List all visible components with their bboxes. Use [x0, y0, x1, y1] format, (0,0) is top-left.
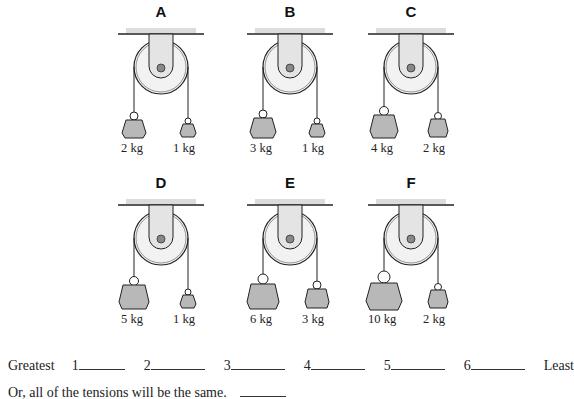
rank-blank-3[interactable]: [231, 355, 285, 370]
mass-right-label: 1 kg: [173, 141, 195, 156]
pulley-panel-a: A 2 kg 1 kg: [106, 0, 216, 165]
rank-number-6: 6: [464, 358, 471, 374]
rank-blank-6[interactable]: [471, 355, 525, 370]
ranking-row: Greatest 1 2 3 4 5 6 Least: [8, 355, 574, 374]
rank-blank-1[interactable]: [79, 355, 125, 370]
mass-right-label: 1 kg: [302, 141, 324, 156]
greatest-label: Greatest: [8, 358, 55, 374]
rank-number-4: 4: [304, 358, 311, 374]
mass-left-label: 4 kg: [371, 141, 393, 156]
pulley-panel-b: B 3 kg 1 kg: [235, 0, 345, 165]
mass-left-label: 2 kg: [121, 141, 143, 156]
rank-blank-4[interactable]: [311, 355, 365, 370]
pulley-panel-d: D 5 kg 1 kg: [106, 171, 216, 336]
same-tension-text: Or, all of the tensions will be the same…: [8, 385, 227, 399]
same-tension-blank[interactable]: [240, 382, 286, 397]
rank-blank-5[interactable]: [391, 355, 445, 370]
pulley-panel-e: E 6 kg 3 kg: [235, 171, 345, 336]
same-tension-row: Or, all of the tensions will be the same…: [8, 382, 286, 399]
rank-blank-2[interactable]: [151, 355, 205, 370]
least-label: Least: [544, 358, 574, 374]
pulley-panel-c: C 4 kg 2 kg: [356, 0, 466, 165]
mass-left-label: 10 kg: [368, 312, 396, 327]
mass-right-label: 1 kg: [173, 312, 195, 327]
mass-left-label: 3 kg: [250, 141, 272, 156]
mass-left-label: 5 kg: [121, 312, 143, 327]
rank-number-2: 2: [144, 358, 151, 374]
pulley-panel-f: F 10 kg 2 kg: [356, 171, 466, 336]
rank-number-1: 1: [72, 358, 79, 374]
rank-number-5: 5: [384, 358, 391, 374]
mass-right-label: 2 kg: [423, 141, 445, 156]
rank-number-3: 3: [224, 358, 231, 374]
mass-right-label: 2 kg: [423, 312, 445, 327]
mass-right-label: 3 kg: [302, 312, 324, 327]
mass-left-label: 6 kg: [250, 312, 272, 327]
